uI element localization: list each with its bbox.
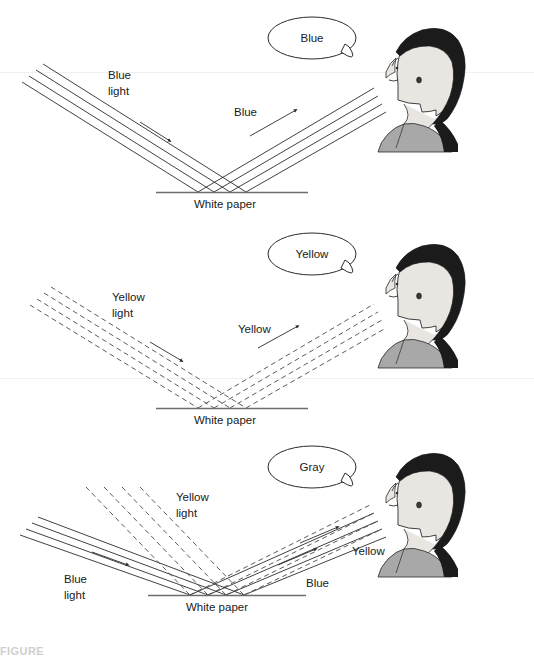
reflected-label: Yellow: [238, 323, 272, 335]
observer-figure: [378, 28, 465, 152]
figure-selective-reflection: Blue light Blue White paper Blue: [0, 0, 534, 659]
incident-yellow-label-line2: light: [176, 507, 198, 519]
panel-yellow-drawing: Yellow light Yellow White paper Yellow: [0, 220, 534, 435]
incident-beam-yellow: [86, 487, 244, 595]
incident-beam-blue: [22, 64, 246, 192]
reflected-beam-yellow: [198, 304, 386, 408]
incident-blue-label-line1: Blue: [64, 573, 87, 585]
speech-bubble-text: Blue: [300, 32, 323, 44]
panel-gray: Yellow light Blue light Yellow Blue Whit…: [0, 435, 534, 645]
observer-figure: [378, 453, 465, 577]
panel-blue-drawing: Blue light Blue White paper Blue: [0, 0, 534, 220]
observer-figure: [378, 244, 465, 368]
incident-label-line1: Blue: [108, 69, 131, 81]
speech-bubble-text: Yellow: [296, 248, 330, 260]
reflected-yellow-label: Yellow: [352, 545, 386, 557]
incident-yellow-label-line1: Yellow: [176, 491, 210, 503]
incident-beam-yellow: [30, 287, 246, 408]
incident-beam-blue: [20, 517, 244, 595]
incident-blue-label-line2: light: [64, 589, 86, 601]
reflected-beam-blue: [198, 88, 386, 192]
reflected-arrow-blue: [278, 549, 316, 565]
incident-arrow-blue: [92, 552, 128, 565]
panel-yellow: Yellow light Yellow White paper Yellow: [0, 220, 534, 435]
reflected-blue-label: Blue: [306, 577, 329, 589]
white-paper-label: White paper: [194, 198, 256, 210]
panel-blue: Blue light Blue White paper Blue: [0, 0, 534, 220]
speech-bubble-text: Gray: [300, 461, 325, 473]
panel-gray-drawing: Yellow light Blue light Yellow Blue Whit…: [0, 435, 534, 645]
incident-label-line2: light: [112, 307, 134, 319]
incident-label-line1: Yellow: [112, 291, 146, 303]
white-paper-label: White paper: [194, 414, 256, 426]
reflected-label: Blue: [234, 106, 257, 118]
white-paper-label: White paper: [186, 601, 248, 613]
incident-label-line2: light: [108, 85, 130, 97]
figure-caption: FIGURE: [0, 645, 534, 659]
